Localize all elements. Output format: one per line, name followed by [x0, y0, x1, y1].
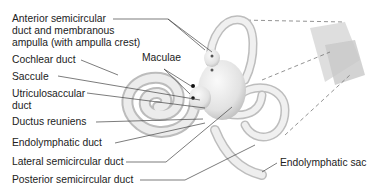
label-anterior-semicircular-3: ampulla (with ampulla crest)	[12, 37, 140, 49]
macula-dot	[191, 84, 195, 88]
cochlea	[127, 78, 195, 132]
label-cochlear-duct: Cochlear duct	[12, 54, 76, 66]
label-anterior-semicircular-2: duct and membranous	[12, 25, 114, 37]
label-endolymphatic-sac: Endolymphatic sac	[280, 157, 366, 169]
orientation-planes	[240, 20, 365, 135]
label-endolymphatic-duct: Endolymphatic duct	[12, 137, 102, 149]
label-lateral-semicircular-duct: Lateral semicircular duct	[12, 156, 124, 168]
label-utriculosaccular-duct-2: duct	[12, 100, 31, 112]
label-anterior-semicircular: Anterior semicircular	[12, 13, 106, 25]
label-utriculosaccular-duct: Utriculosaccular	[12, 88, 85, 100]
label-maculae: Maculae	[142, 52, 181, 64]
label-ductus-reuniens: Ductus reuniens	[12, 116, 86, 128]
label-posterior-semicircular-duct: Posterior semicircular duct	[12, 174, 133, 186]
label-saccule: Saccule	[12, 71, 49, 83]
